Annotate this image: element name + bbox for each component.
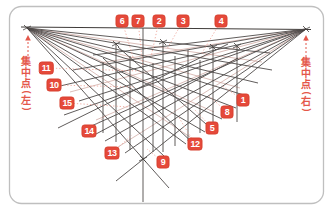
vp-label-char: ) xyxy=(23,108,29,111)
vp-label-char: 中 xyxy=(21,67,31,78)
callout-badge-7: 7 xyxy=(132,15,145,28)
vp-label-char: 左 xyxy=(21,95,31,106)
callout-badge-9: 9 xyxy=(157,156,170,169)
vp-label-char: ( xyxy=(23,91,29,94)
callout-badge-8: 8 xyxy=(221,106,234,119)
vanishing-point-label-left: 集中点(左) xyxy=(19,56,33,112)
callout-badge-1: 1 xyxy=(237,94,250,107)
vp-label-char: 右 xyxy=(301,96,311,107)
vp-label-char: 点 xyxy=(301,79,311,90)
callout-badge-15: 15 xyxy=(59,97,74,110)
perspective-diagram-card: 123456789101112131415 集中点(左) 集中点(右) xyxy=(0,0,334,223)
callout-badge-13: 13 xyxy=(104,147,119,160)
callout-badge-5: 5 xyxy=(206,122,219,135)
callout-badge-3: 3 xyxy=(177,15,190,28)
callout-badge-6: 6 xyxy=(116,15,129,28)
callout-badge-10: 10 xyxy=(46,79,61,92)
callout-badge-2: 2 xyxy=(153,15,166,28)
vp-label-char: 中 xyxy=(301,68,311,79)
callout-badge-14: 14 xyxy=(81,125,96,138)
callout-badge-4: 4 xyxy=(215,15,228,28)
callout-badge-11: 11 xyxy=(39,62,54,75)
vp-label-char: 集 xyxy=(301,57,311,68)
callout-badge-12: 12 xyxy=(187,138,202,151)
vp-label-char: 点 xyxy=(21,78,31,89)
vp-label-char: ( xyxy=(303,92,309,95)
vp-label-char: 集 xyxy=(21,56,31,67)
vp-label-char: ) xyxy=(303,109,309,112)
vanishing-point-label-right: 集中点(右) xyxy=(299,57,313,113)
perspective-diagram xyxy=(0,0,334,223)
